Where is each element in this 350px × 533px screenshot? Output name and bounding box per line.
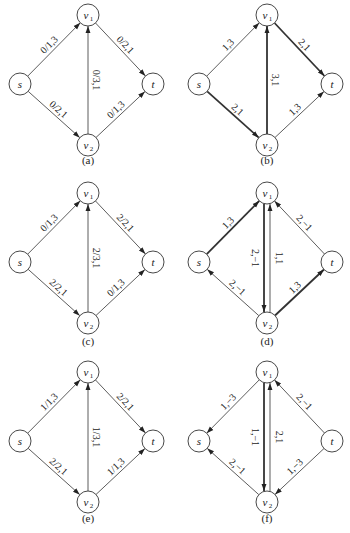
edge-s-to-v1 (28, 201, 81, 254)
node-subscript: 2 (269, 145, 273, 153)
edge-label: 2/2,1 (115, 212, 137, 234)
node-v2: v2 (77, 134, 99, 156)
node-t: t (321, 73, 343, 95)
node-subscript: 1 (269, 372, 273, 380)
panel-caption: (a) (82, 154, 95, 167)
node-v1: v1 (77, 182, 99, 204)
node-v1: v1 (77, 4, 99, 26)
edge-label: 2/2,1 (47, 276, 69, 298)
edge-v1-to-t (96, 201, 146, 254)
node-t: t (142, 251, 164, 273)
edge-s-to-v1 (207, 23, 260, 76)
node-t: t (321, 430, 343, 452)
graph-panel-e: 1/1,32/2,12/2,11/1,31/3,1sv1v2t(e) (9, 361, 164, 525)
node-label: v (84, 9, 89, 21)
node-label: v (263, 496, 268, 508)
edge-v1-to-t (96, 380, 146, 433)
edge-v2-to-s (207, 448, 259, 494)
edge-label: 0/1,3 (38, 212, 60, 234)
edge-label: 2,−1 (294, 391, 314, 412)
node-label: s (18, 435, 22, 447)
node-t: t (142, 73, 164, 95)
edge-label: 2,1 (229, 101, 246, 118)
edge-label: 0/3,1 (91, 70, 102, 90)
edge-label: 2,−1 (227, 277, 248, 297)
edge-label: 0/1,3 (105, 276, 127, 298)
edge-v2-to-t (275, 92, 324, 138)
node-subscript: 2 (90, 145, 94, 153)
edge-v2-to-t (275, 270, 324, 316)
node-label: v (263, 317, 268, 329)
edge-s-to-v1 (28, 23, 81, 76)
edge-label: 2/2,1 (47, 455, 69, 477)
graph-panel-b: 1,32,12,11,33,1sv1v2t(b) (188, 4, 343, 167)
node-label: v (263, 9, 268, 21)
edge-label: 1,3 (220, 36, 237, 53)
node-s: s (9, 251, 31, 273)
node-subscript: 1 (269, 193, 273, 201)
edge-v1-to-t (96, 23, 146, 76)
edge-label: 0/2,1 (47, 98, 69, 120)
graph-panel-c: 0/1,32/2,12/2,10/1,32/3,1sv1v2t(c) (9, 182, 164, 348)
edge-label: 2/3,1 (91, 248, 102, 268)
node-v1: v1 (256, 361, 278, 383)
node-t: t (142, 430, 164, 452)
node-label: v (263, 187, 268, 199)
edge-label: 2,−1 (250, 249, 261, 267)
node-s: s (188, 430, 210, 452)
node-label: s (197, 78, 201, 90)
node-s: s (188, 251, 210, 273)
edge-label: 1/1,3 (38, 391, 60, 413)
edge-v2-to-s (207, 269, 259, 315)
edge-label: 1,−1 (250, 428, 261, 446)
node-subscript: 2 (90, 323, 94, 331)
node-v1: v1 (256, 182, 278, 204)
edge-t-to-v1 (275, 380, 325, 433)
node-subscript: 1 (90, 15, 94, 23)
edge-label: 0/1,3 (105, 98, 127, 120)
edge-label: 1,3 (286, 279, 303, 296)
edge-label: 1,3 (286, 101, 303, 118)
node-v2: v2 (77, 491, 99, 513)
node-v1: v1 (256, 4, 278, 26)
edge-s-to-v1 (28, 380, 81, 433)
edge-t-to-v2 (275, 449, 324, 495)
edge-label: 2,−1 (227, 456, 248, 476)
node-s: s (188, 73, 210, 95)
edge-label: 1,3 (220, 214, 237, 231)
node-v2: v2 (256, 491, 278, 513)
edge-v2-to-t (96, 92, 145, 138)
edge-label: 1,−3 (218, 391, 239, 412)
node-s: s (9, 430, 31, 452)
edge-label: 2/2,1 (115, 391, 137, 413)
node-v2: v2 (256, 312, 278, 334)
node-v2: v2 (77, 312, 99, 334)
edge-v2-to-t (96, 449, 145, 495)
edge-label: 1,−3 (284, 456, 305, 476)
edge-t-to-v1 (275, 201, 325, 254)
graph-panel-a: 0/1,30/2,10/2,10/1,30/3,1sv1v2t(a) (9, 4, 164, 167)
edge-label: 2,1 (296, 36, 313, 53)
node-label: s (18, 256, 22, 268)
node-label: s (197, 435, 201, 447)
edge-label: 2,−1 (294, 212, 314, 233)
node-v2: v2 (256, 134, 278, 156)
node-label: v (84, 139, 89, 151)
panel-caption: (d) (261, 335, 274, 348)
edge-label: 1/3,1 (91, 427, 102, 447)
node-subscript: 1 (90, 372, 94, 380)
graph-panel-d: 1,32,−12,−11,32,−11,1sv1v2t(d) (188, 182, 343, 348)
node-label: v (84, 496, 89, 508)
node-label: v (84, 366, 89, 378)
network-flow-figure: 0/1,30/2,10/2,10/1,30/3,1sv1v2t(a)1,32,1… (0, 0, 350, 533)
panel-caption: (f) (262, 512, 273, 525)
node-subscript: 1 (269, 15, 273, 23)
node-label: v (84, 317, 89, 329)
edge-v1-to-s (207, 380, 260, 433)
node-label: v (263, 366, 268, 378)
node-label: v (263, 139, 268, 151)
graph-panel-f: 1,−32,−12,−11,−31,−12,1sv1v2t(f) (188, 361, 343, 525)
node-label: s (18, 78, 22, 90)
panel-caption: (b) (261, 154, 274, 167)
edge-v2-to-t (96, 270, 145, 316)
